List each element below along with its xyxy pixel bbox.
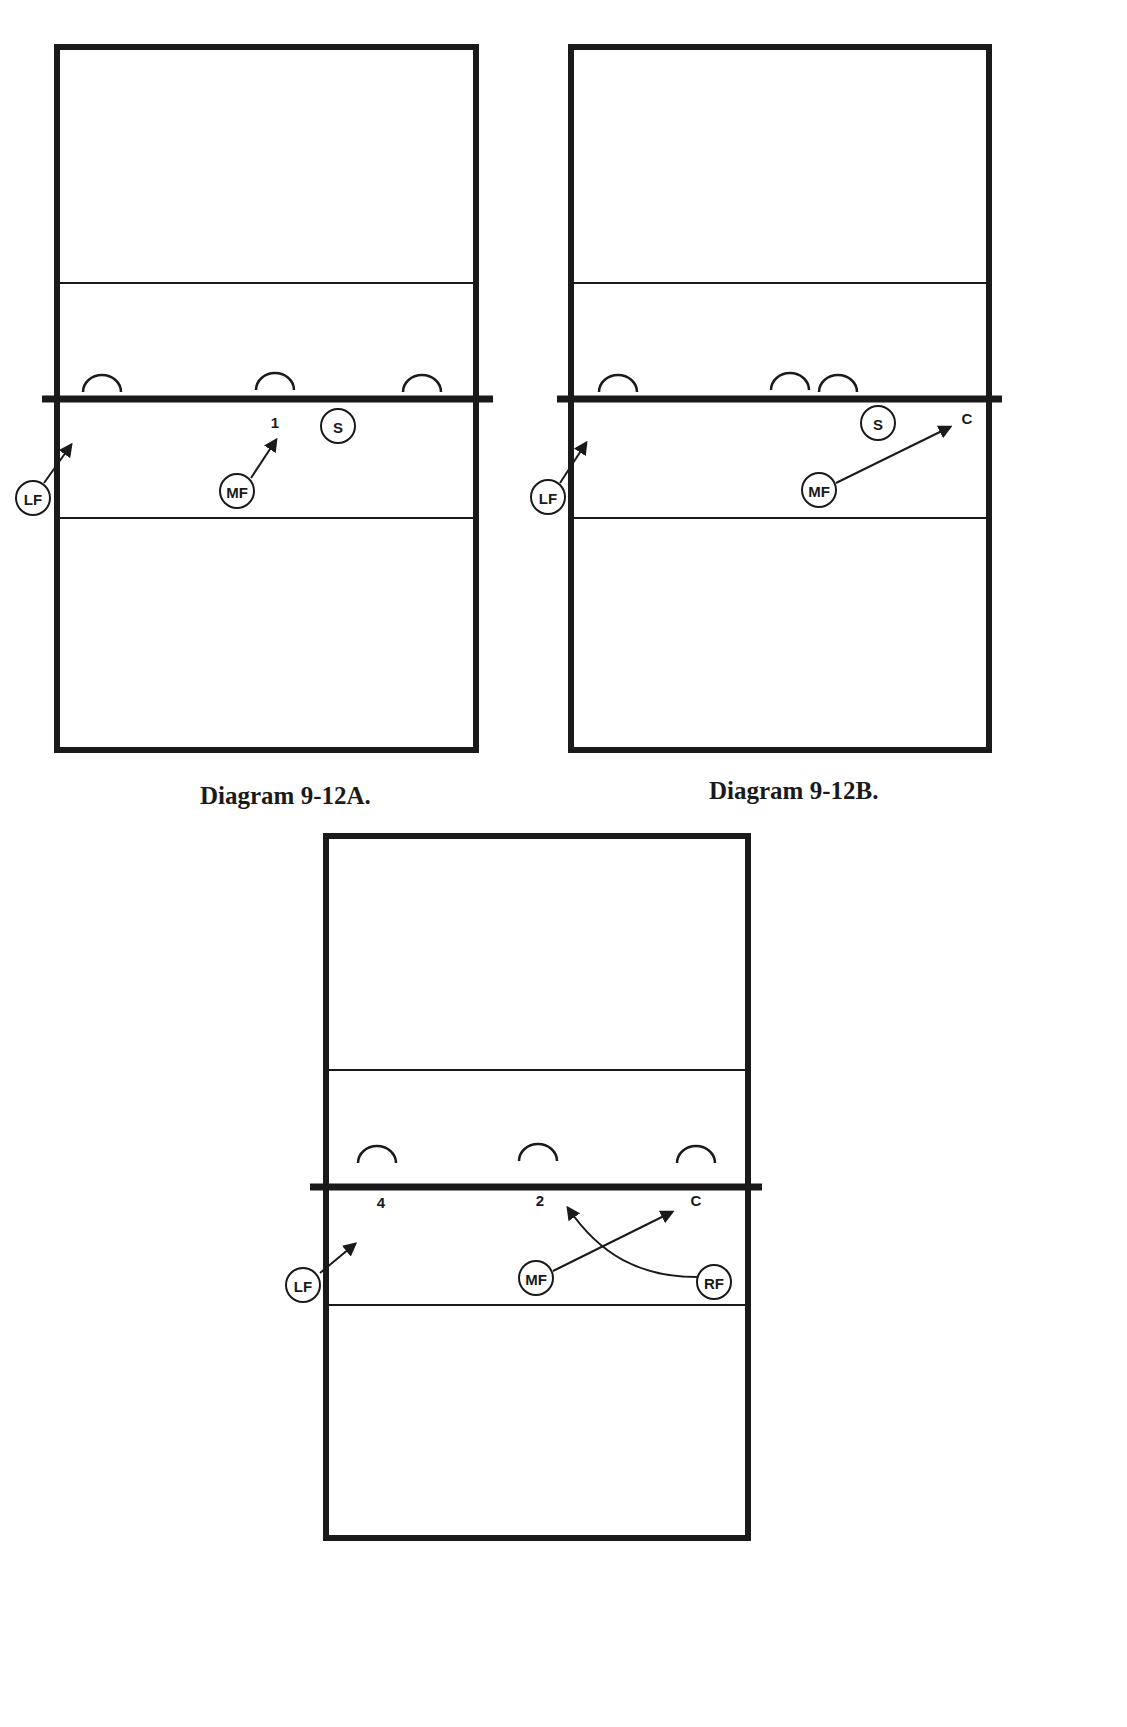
player-label: MF <box>525 1271 547 1288</box>
court-diagram-9-12b: CLFMFS <box>531 47 1002 750</box>
spot-label: 2 <box>536 1192 544 1209</box>
blocker-arc-icon <box>819 375 857 392</box>
blocker-arc-icon <box>403 375 441 392</box>
spot-label: C <box>691 1192 702 1209</box>
player-mf: MF <box>519 1261 553 1295</box>
player-label: RF <box>704 1275 724 1292</box>
player-label: LF <box>539 490 557 507</box>
player-label: MF <box>226 484 248 501</box>
diagram-canvas: 1LFMFSCLFMFS42CLFMFRF <box>0 0 1127 1727</box>
player-mf: MF <box>220 474 254 508</box>
player-s: S <box>321 409 355 443</box>
player-lf: LF <box>531 480 565 514</box>
blocker-arc-icon <box>599 375 637 392</box>
blocker-arc-icon <box>677 1146 715 1163</box>
court-diagram-9-12c: 42CLFMFRF <box>286 836 762 1538</box>
caption-diagram-9-12b: Diagram 9-12B. <box>709 777 878 805</box>
player-mf: MF <box>802 473 836 507</box>
blocker-arc-icon <box>519 1144 557 1161</box>
player-label: LF <box>294 1278 312 1295</box>
spot-label: 1 <box>271 414 279 431</box>
blocker-arc-icon <box>256 373 294 390</box>
spot-label: 4 <box>377 1194 386 1211</box>
player-s: S <box>861 406 895 440</box>
blocker-arc-icon <box>358 1146 396 1163</box>
caption-diagram-9-12a: Diagram 9-12A. <box>200 782 371 810</box>
court-diagram-9-12a: 1LFMFS <box>16 47 493 750</box>
movement-arrow-mf <box>553 1212 672 1271</box>
spot-label: C <box>962 410 973 427</box>
movement-arrow-rf <box>568 1208 697 1277</box>
movement-arrow-mf <box>251 440 276 478</box>
player-label: S <box>873 416 883 433</box>
player-label: LF <box>24 491 42 508</box>
player-label: S <box>333 419 343 436</box>
blocker-arc-icon <box>83 375 121 392</box>
player-rf: RF <box>697 1265 731 1299</box>
player-label: MF <box>808 483 830 500</box>
blocker-arc-icon <box>771 373 809 390</box>
player-lf: LF <box>16 481 50 515</box>
player-lf: LF <box>286 1268 320 1302</box>
movement-arrow-mf <box>836 427 950 483</box>
